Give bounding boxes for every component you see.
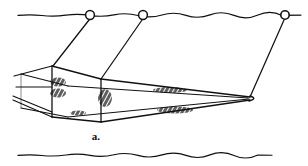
float-1-icon (86, 11, 95, 20)
figure-caption-label: a. (92, 130, 101, 142)
shade-mouth-center (98, 89, 112, 107)
float-2-icon (139, 11, 148, 20)
figure-container: a. (0, 0, 308, 166)
shade-belly-left (70, 110, 86, 115)
figure-caption: a. (0, 130, 308, 142)
float-3-icon (281, 11, 289, 19)
